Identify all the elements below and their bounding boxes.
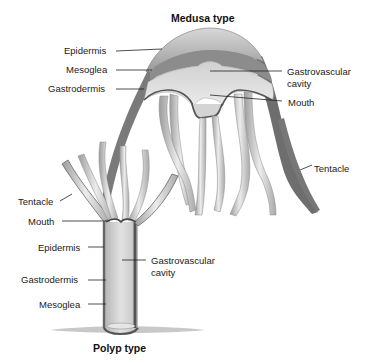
medusa-title: Medusa type [171, 12, 235, 24]
polyp-label-gastrovascular-2: cavity [151, 267, 176, 278]
medusa-tentacle [195, 118, 206, 215]
polyp-label-epidermis: Epidermis [38, 242, 80, 253]
polyp-stalk [104, 222, 138, 333]
polyp-label-tentacle: Tentacle [18, 196, 53, 207]
medusa-tentacle [212, 116, 225, 212]
medusa-illustration [100, 28, 320, 216]
medusa-label-gastrovascular-1: Gastrovascular [287, 66, 351, 77]
medusa-label-gastrovascular-2: cavity [287, 78, 312, 89]
polyp-tentacle [120, 146, 129, 220]
medusa-label-tentacle: Tentacle [314, 163, 349, 174]
cnidarian-body-forms-diagram: Medusa type Epidermis Mesoglea Gastroder… [0, 0, 369, 363]
medusa-label-mouth: Mouth [288, 97, 314, 108]
polyp-label-mouth: Mouth [28, 216, 54, 227]
polyp-label-mesoglea: Mesoglea [39, 299, 81, 310]
medusa-label-mesoglea: Mesoglea [66, 64, 108, 75]
polyp-label-gastrodermis: Gastrodermis [21, 274, 78, 285]
polyp-label-gastrovascular-1: Gastrovascular [151, 255, 215, 266]
polyp-title: Polyp type [93, 342, 146, 354]
polyp-base-opening [107, 323, 135, 329]
medusa-label-epidermis: Epidermis [64, 45, 106, 56]
medusa-label-gastrodermis: Gastrodermis [48, 83, 105, 94]
